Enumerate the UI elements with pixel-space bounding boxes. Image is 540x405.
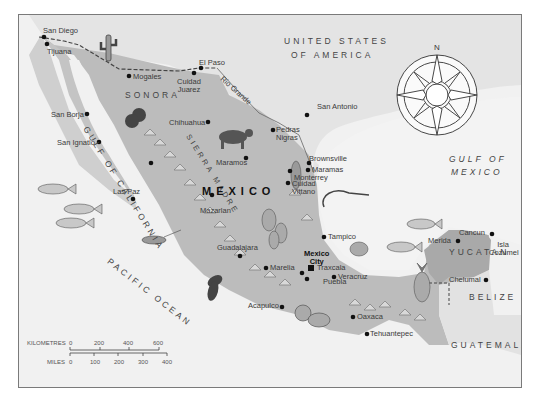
scale-km-tick: 0 [69,340,72,346]
scale-km-tick: 200 [94,340,104,346]
city-label: Tampico [328,233,356,241]
city-label: Guadalajara [217,244,258,252]
city-label: Mazarlan [200,207,231,215]
city-label: Marelia [270,264,295,272]
fish-icon [38,184,102,228]
city-label: San Ignatio [57,139,95,147]
city-label: Tijuana [47,48,71,56]
scale-mile-tick: 400 [162,359,172,365]
belize-label: BELIZE [469,293,516,302]
city-label: San Antonio [317,103,357,111]
map-frame: UNITED STATES OF AMERICA GULF OF MEXICO … [18,14,522,388]
scale-km-label: KILOMETRES [27,340,66,346]
scale-mile-tick: 300 [138,359,148,365]
city-label: Veracruz [338,273,368,281]
city-label: Brownsville [309,155,347,163]
city-label: Cancun [459,229,485,237]
city-label: Isla Cozumel [489,241,517,256]
city-label: Maramos [216,159,247,167]
usa-label: UNITED STATES [284,37,389,46]
scale-mile-tick: 200 [114,359,124,365]
city-label: Chelumal [449,276,481,284]
mexico-title: MEXICO [202,185,275,197]
city-label: Las Paz [113,188,140,196]
city-label: Acapulco [248,302,279,310]
city-label: Traxcala [317,264,345,272]
guatemala-label: GUATEMALA [451,341,522,350]
city-label: San Borja [51,111,84,119]
city-label: Cuidad Juarez [174,78,204,93]
city-label: Merida [428,237,451,245]
city-label: El Paso [199,59,225,67]
scale-km-tick: 400 [123,340,133,346]
city-label: Cuidad Vittano [292,180,322,195]
crab-icon [350,242,368,256]
city-label: Pedras Nigras [276,126,306,141]
gulf-of-mexico-label-line2: MEXICO [451,168,503,177]
map-graphic [19,15,521,387]
gulf-of-mexico-label: GULF OF [449,155,507,164]
city-label: Mogales [133,73,161,81]
capital-marker [308,265,314,271]
scale-mile-tick: 0 [69,359,72,365]
scale-miles-label: MILES [47,359,65,365]
usa-label-line2: OF AMERICA [291,51,373,60]
compass-rose [397,55,477,135]
scale-mile-tick: 100 [90,359,100,365]
city-label: Oaxaca [357,313,383,321]
scale-km-tick: 600 [153,340,163,346]
sonora-label: SONORA [125,91,180,100]
scale-bar [70,347,167,356]
city-label: San Diego [43,27,78,35]
compass-north-label: N [434,44,440,52]
city-label: Tehuantepec [370,330,413,338]
city-label: Chihuahua [169,119,205,127]
